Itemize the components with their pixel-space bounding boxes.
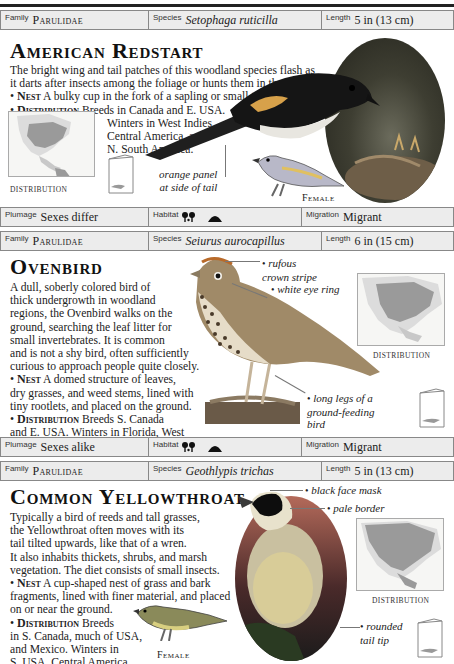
distribution-line: and Mexico. Winters in bbox=[10, 643, 235, 656]
family-value: Parulidae bbox=[33, 234, 83, 249]
common-yellowthroat-female-illustration bbox=[133, 601, 229, 641]
species-value: Seiurus aurocapillus bbox=[185, 234, 284, 249]
nest-line: dry grasses, and weed stems, lined with bbox=[10, 387, 205, 400]
map-caption: DISTRIBUTION bbox=[10, 185, 67, 194]
family-cell: Family Parulidae bbox=[1, 11, 149, 29]
description-line: and is not a shy bird, often sufficientl… bbox=[10, 347, 205, 360]
description-line: the Yellowthroat often moves with its bbox=[10, 524, 235, 537]
hill-icon bbox=[204, 442, 226, 452]
length-label: Length bbox=[326, 464, 350, 473]
nest-text: A cup-shaped nest of grass and bark bbox=[43, 577, 210, 590]
callout-white-eye-ring: • white eye ring bbox=[271, 283, 340, 297]
length-label: Length bbox=[326, 234, 350, 243]
north-america-map-icon bbox=[9, 112, 95, 177]
length-value: 5 in (13 cm) bbox=[354, 464, 413, 479]
plumage-label: Plumage bbox=[5, 440, 37, 449]
callout-line: white eye ring bbox=[277, 283, 339, 295]
distribution-label: Distribution bbox=[17, 412, 79, 426]
description-line: regions, the Ovenbird walks on the bbox=[10, 307, 205, 320]
description-line: thick undergrowth in woodland bbox=[10, 294, 205, 307]
species-cell: Species Geothlypis trichas bbox=[149, 462, 322, 480]
species-cell: Species Seiurus aurocapillus bbox=[149, 232, 322, 250]
length-cell: Length 5 in (13 cm) bbox=[322, 462, 453, 480]
family-value: Parulidae bbox=[33, 464, 83, 479]
length-cell: Length 6 in (15 cm) bbox=[322, 232, 453, 250]
distribution-line: S. USA, Central America, bbox=[10, 656, 235, 664]
migration-value: Migrant bbox=[343, 210, 382, 225]
callout-leader-line bbox=[225, 261, 260, 262]
callout-line: rufous bbox=[268, 257, 296, 269]
callout-line: crown stripe bbox=[262, 271, 317, 284]
callout-black-face-mask: • black face mask bbox=[305, 484, 382, 498]
info-bar: Family Parulidae Species Geothlypis tric… bbox=[0, 461, 454, 481]
plumage-value: Sexes differ bbox=[41, 210, 98, 225]
callout-line: pale border bbox=[333, 502, 384, 514]
habitat-cell: Habitat bbox=[149, 208, 302, 226]
distribution-text: Breeds bbox=[82, 617, 114, 630]
description-line: small invertebrates. It is common bbox=[10, 334, 205, 347]
map-caption: DISTRIBUTION bbox=[372, 596, 429, 605]
info-bar: Family Parulidae Species Setophaga rutic… bbox=[0, 10, 454, 30]
migration-cell: Migration Migrant bbox=[302, 208, 453, 226]
callout-leader-line bbox=[225, 145, 226, 177]
nest-line: • Nest A cup-shaped nest of grass and ba… bbox=[10, 577, 235, 590]
field-guide-book-icon bbox=[416, 617, 444, 659]
species-label: Species bbox=[153, 234, 181, 243]
callout-rufous-crown-stripe: • rufous crown stripe bbox=[262, 257, 317, 283]
callout-line: ground-feeding bbox=[307, 406, 374, 419]
species-label: Species bbox=[153, 464, 181, 473]
north-america-map-icon bbox=[357, 519, 444, 591]
plumage-label: Plumage bbox=[5, 210, 37, 219]
callout-leader-line bbox=[270, 490, 303, 491]
callout-line: rounded bbox=[366, 620, 402, 632]
habitat-label: Habitat bbox=[153, 210, 178, 219]
family-label: Family bbox=[5, 464, 29, 473]
female-label: Female bbox=[302, 192, 335, 203]
migration-label: Migration bbox=[306, 210, 339, 219]
species-value: Setophaga ruticilla bbox=[185, 13, 277, 28]
distribution-label: Distribution bbox=[17, 616, 79, 630]
species-title: Common Yellowthroat bbox=[10, 484, 245, 510]
hill-icon bbox=[204, 212, 226, 222]
species-description: Typically a bird of reeds and tall grass… bbox=[10, 511, 235, 664]
migration-cell: Migration Migrant bbox=[302, 438, 453, 456]
description-line: Typically a bird of reeds and tall grass… bbox=[10, 511, 235, 524]
american-redstart-male-illustration bbox=[140, 50, 380, 160]
nest-line: • Nest A domed structure of leaves, bbox=[10, 373, 205, 386]
callout-line: bird bbox=[307, 418, 374, 431]
callout-line: orange panel bbox=[159, 168, 217, 181]
american-redstart-female-illustration bbox=[252, 148, 344, 198]
nest-text: A domed structure of leaves, bbox=[43, 373, 176, 386]
length-value: 6 in (15 cm) bbox=[354, 234, 413, 249]
species-description: A dull, soberly colored bird of thick un… bbox=[10, 281, 205, 453]
species-cell: Species Setophaga ruticilla bbox=[149, 11, 322, 29]
field-guide-book-icon bbox=[107, 153, 135, 195]
species-value: Geothlypis trichas bbox=[185, 464, 273, 479]
field-guide-book-icon bbox=[418, 387, 446, 429]
length-label: Length bbox=[326, 13, 350, 22]
length-value: 5 in (13 cm) bbox=[354, 13, 413, 28]
callout-long-legs: • long legs of a ground-feeding bird bbox=[307, 392, 374, 431]
family-label: Family bbox=[5, 234, 29, 243]
migration-value: Migrant bbox=[343, 440, 382, 455]
family-cell: Family Parulidae bbox=[1, 232, 149, 250]
distribution-line: • Distribution Breeds S. Canada bbox=[10, 413, 205, 426]
species-title: Ovenbird bbox=[10, 254, 103, 280]
habitat-cell: Habitat bbox=[149, 438, 302, 456]
plumage-value: Sexes alike bbox=[41, 440, 95, 455]
status-bar: Plumage Sexes differ Habitat Migration M… bbox=[0, 207, 454, 227]
length-cell: Length 5 in (13 cm) bbox=[322, 11, 453, 29]
family-label: Family bbox=[5, 13, 29, 22]
black-face-mask-head bbox=[236, 484, 296, 544]
description-line: vegetation. The diet consists of small i… bbox=[10, 564, 235, 577]
callout-line: black face mask bbox=[311, 484, 381, 496]
description-line: A dull, soberly colored bird of bbox=[10, 281, 205, 294]
description-line: tail tilted upwards, like that of a wren… bbox=[10, 537, 235, 550]
nest-label: Nest bbox=[17, 372, 41, 386]
info-bar: Family Parulidae Species Seiurus aurocap… bbox=[0, 231, 454, 251]
plumage-cell: Plumage Sexes alike bbox=[1, 438, 149, 456]
callout-leader-line bbox=[290, 508, 325, 509]
status-bar: Plumage Sexes alike Habitat Migration Mi… bbox=[0, 437, 454, 457]
distribution-map bbox=[357, 273, 445, 346]
callout-line: tail tip bbox=[360, 634, 403, 647]
